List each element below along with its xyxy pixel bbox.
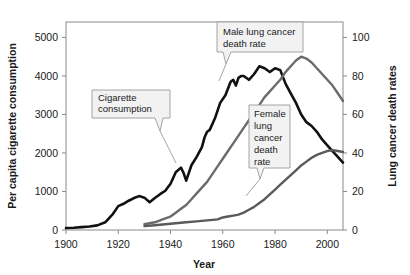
- callout-line-1: Female: [254, 108, 286, 119]
- x-tick-label: 1960: [211, 238, 235, 250]
- chart-figure: 010002000300040005000 020406080100 19001…: [0, 0, 410, 275]
- callout-line-3: cancer: [254, 132, 283, 143]
- callout-line-2: death rate: [223, 38, 266, 49]
- y-tick-label-left: 1000: [35, 185, 59, 197]
- y-tick-label-right: 0: [352, 224, 358, 236]
- y-axis-left-title: Per capita cigarette consumption: [6, 43, 18, 209]
- y-tick-label-left: 4000: [35, 70, 59, 82]
- y-axis-right-title: Lung cancer death rates: [386, 65, 398, 187]
- callout-line-2: lung: [254, 120, 272, 131]
- x-tick-label: 1940: [159, 238, 183, 250]
- callout-line-5: rate: [254, 156, 270, 167]
- x-tick-label: 1980: [263, 238, 287, 250]
- callout-line-1: Cigarette: [98, 92, 137, 103]
- y-tick-label-right: 20: [352, 185, 364, 197]
- callout-line-2: consumption: [98, 103, 152, 114]
- x-tick-label: 1920: [107, 238, 131, 250]
- x-axis-title: Year: [193, 258, 215, 270]
- y-tick-label-left: 0: [52, 224, 58, 236]
- y-tick-label-right: 80: [352, 70, 364, 82]
- y-tick-label-left: 5000: [35, 31, 59, 43]
- y-tick-label-right: 100: [352, 31, 370, 43]
- y-tick-label-left: 2000: [35, 147, 59, 159]
- x-tick-label: 1900: [54, 238, 78, 250]
- y-tick-label-right: 60: [352, 108, 364, 120]
- callout-line-1: Male lung cancer: [223, 26, 295, 37]
- chart-svg: 010002000300040005000 020406080100 19001…: [0, 0, 410, 275]
- y-tick-label-right: 40: [352, 147, 364, 159]
- x-tick-label: 2000: [316, 238, 340, 250]
- y-tick-label-left: 3000: [35, 108, 59, 120]
- callout-line-4: death: [254, 144, 278, 155]
